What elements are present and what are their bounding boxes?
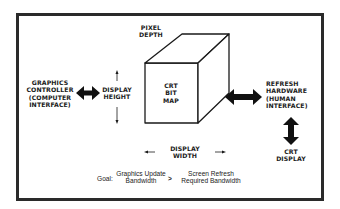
- refresh-hardware-line-3: (HUMAN: [266, 95, 316, 102]
- graphics-controller-line-3: (COMPUTER: [25, 94, 75, 101]
- display-width-line-1: DISPLAY: [170, 145, 200, 152]
- goal-left-term: Graphics Update Bandwidth: [115, 170, 167, 185]
- refresh-hardware-line-1: REFRESH: [266, 80, 316, 87]
- goal-operator: >: [168, 175, 172, 182]
- graphics-controller-line-4: INTERFACE): [25, 101, 75, 108]
- crt-display-line-1: CRT: [276, 148, 306, 155]
- crt-display-label: CRT DISPLAY: [276, 148, 306, 163]
- crt-display-line-2: DISPLAY: [276, 155, 306, 162]
- refresh-hardware-line-4: INTERFACE): [266, 102, 316, 109]
- graphics-controller-line-2: CONTROLLER: [25, 86, 75, 93]
- display-width-line-2: WIDTH: [170, 152, 200, 159]
- display-height-line-2: HEIGHT: [102, 93, 132, 100]
- goal-right-line-1: Screen Refresh: [178, 170, 244, 177]
- pixel-depth-line-2: DEPTH: [136, 31, 166, 38]
- cube-shape: [145, 34, 229, 123]
- goal-prefix: Goal:: [97, 175, 113, 182]
- refresh-hardware-line-2: HARDWARE: [266, 87, 316, 94]
- crt-bit-map-line-2: BIT: [156, 89, 186, 96]
- double-arrow-icon: [225, 89, 262, 105]
- crt-bit-map-line-3: MAP: [156, 97, 186, 104]
- goal-left-line-2: Bandwidth: [115, 177, 167, 184]
- vertical-double-arrow-icon: [283, 117, 299, 145]
- graphics-controller-label: GRAPHICS CONTROLLER (COMPUTER INTERFACE): [25, 79, 75, 109]
- crt-bit-map-line-1: CRT: [156, 82, 186, 89]
- display-height-line-1: DISPLAY: [102, 86, 132, 93]
- goal-left-line-1: Graphics Update: [115, 170, 167, 177]
- display-width-label: DISPLAY WIDTH: [170, 145, 200, 160]
- goal-right-term: Screen Refresh Required Bandwidth: [178, 170, 244, 185]
- pixel-depth-line-1: PIXEL: [136, 24, 166, 31]
- double-arrow-icon: [76, 86, 100, 100]
- graphics-controller-line-1: GRAPHICS: [25, 79, 75, 86]
- pixel-depth-label: PIXEL DEPTH: [136, 24, 166, 39]
- crt-bit-map-label: CRT BIT MAP: [156, 82, 186, 104]
- goal-right-line-2: Required Bandwidth: [178, 177, 244, 184]
- display-height-label: DISPLAY HEIGHT: [102, 86, 132, 101]
- refresh-hardware-label: REFRESH HARDWARE (HUMAN INTERFACE): [266, 80, 316, 110]
